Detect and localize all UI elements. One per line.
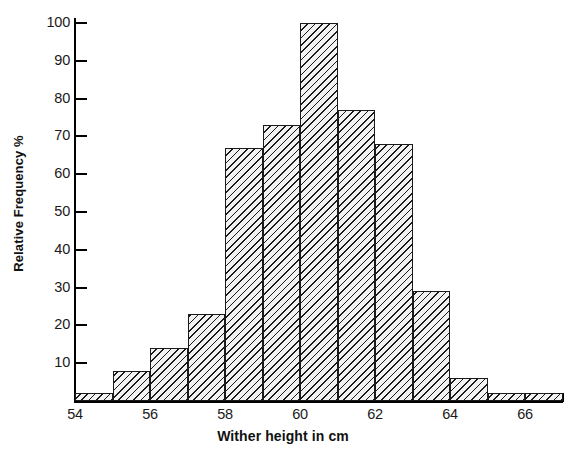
histogram-bar	[413, 291, 451, 401]
y-axis-tick-label: 40	[24, 242, 70, 257]
histogram-bar	[113, 371, 151, 401]
y-axis-tick-label-text: 30	[36, 280, 70, 295]
x-axis-tick-label: 58	[200, 406, 250, 423]
y-axis-tick-label-text: 20	[36, 317, 70, 332]
histogram-bar	[188, 314, 226, 401]
y-axis-tick-label-text: 70	[36, 128, 70, 143]
histogram-bar	[375, 144, 413, 401]
y-axis-tick-label: 30	[24, 280, 70, 295]
histogram-bar	[263, 125, 301, 401]
x-axis-tick-label: 62	[350, 406, 400, 423]
histogram-bar	[300, 23, 338, 401]
histogram-bar	[450, 378, 488, 401]
histogram-chart: 102030405060708090100 54565860626466 Rel…	[0, 0, 566, 465]
y-axis-tick-label-text: 100	[36, 15, 70, 30]
y-axis-tick-label-text: 40	[36, 242, 70, 257]
y-axis-tick-label: 80	[24, 91, 70, 106]
x-axis-title: Wither height in cm	[0, 428, 566, 444]
histogram-bar	[525, 393, 563, 401]
y-axis-tick-label: 50	[24, 204, 70, 219]
y-axis-title: Relative Frequency %	[11, 104, 26, 304]
y-axis-tick-label-text: 50	[36, 204, 70, 219]
y-axis-tick-label-text: 90	[36, 53, 70, 68]
histogram-bar	[488, 393, 526, 401]
x-axis-tick-label: 56	[125, 406, 175, 423]
histogram-bar	[338, 110, 376, 401]
y-axis-tick-label: 20	[24, 317, 70, 332]
histogram-bar	[75, 393, 113, 401]
y-axis-tick-label: 100	[24, 15, 70, 30]
histogram-bar	[225, 148, 263, 401]
y-axis-tick-label-text: 10	[36, 355, 70, 370]
y-axis-tick-label: 90	[24, 53, 70, 68]
x-axis-line	[74, 401, 563, 403]
x-axis-tick-label: 64	[425, 406, 475, 423]
histogram-bar	[150, 348, 188, 401]
x-axis-tick-label: 60	[275, 406, 325, 423]
x-axis-tick-label: 54	[50, 406, 100, 423]
y-axis-tick-label-text: 80	[36, 91, 70, 106]
y-axis-tick-label: 10	[24, 355, 70, 370]
bars-layer	[75, 18, 563, 401]
x-axis-tick-label: 66	[500, 406, 550, 423]
y-axis-tick-label-text: 60	[36, 166, 70, 181]
y-axis-tick-label: 60	[24, 166, 70, 181]
y-axis-tick-label: 70	[24, 128, 70, 143]
